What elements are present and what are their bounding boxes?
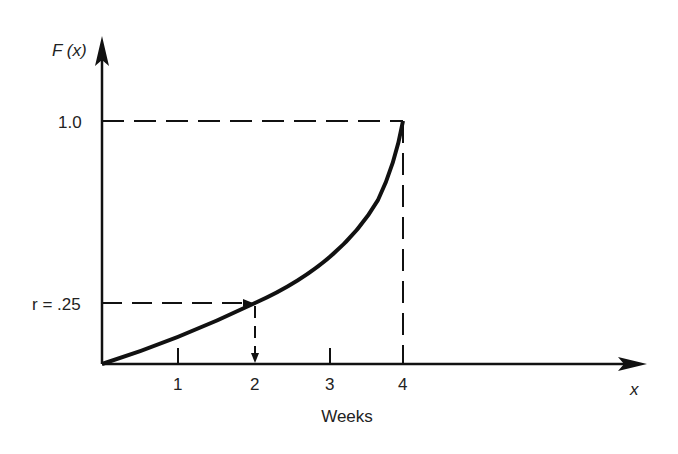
x-tick-label-4: 4: [398, 375, 407, 394]
x-axis-title: Weeks: [321, 407, 373, 426]
y-tick-r: r = .25: [32, 295, 81, 314]
y-tick-one: 1.0: [58, 113, 82, 132]
x-axis-symbol: x: [629, 380, 639, 399]
y-axis-label: F (x): [52, 41, 87, 60]
x-tick-label-3: 3: [325, 375, 334, 394]
x-tick-label-1: 1: [173, 375, 182, 394]
cdf-chart: F (x) 1.0 r = .25 1 2 3 4 x Weeks: [0, 0, 678, 454]
x-tick-label-2: 2: [250, 375, 259, 394]
cdf-curve: [102, 121, 403, 364]
